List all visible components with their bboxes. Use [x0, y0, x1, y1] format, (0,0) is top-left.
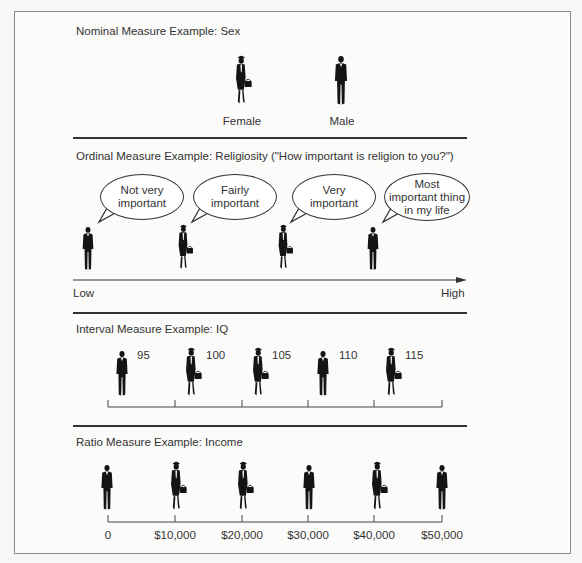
section-divider [73, 425, 467, 427]
male-figure-icon [301, 463, 317, 513]
iq-value-label: 115 [405, 349, 423, 361]
female-figure-icon [167, 461, 189, 513]
male-figure-icon [365, 226, 381, 272]
section-divider [73, 312, 467, 314]
bubble-text: Most [389, 178, 465, 191]
bubble-text: in my life [389, 204, 465, 217]
iq-value-label: 110 [339, 349, 357, 361]
bubble-text: important [118, 197, 166, 210]
income-tick-label: $20,000 [212, 529, 272, 541]
interval-title: Interval Measure Example: IQ [76, 323, 228, 335]
bubble-text: important [310, 197, 358, 210]
low-high-arrow [73, 274, 473, 286]
income-scale-axis [105, 514, 445, 528]
iq-value-label: 100 [206, 349, 225, 361]
male-figure-icon [434, 463, 450, 513]
interval-scale-axis [105, 396, 445, 410]
speech-bubble-very: Veryimportant [292, 174, 376, 220]
female-figure-icon [182, 347, 204, 399]
ordinal-title: Ordinal Measure Example: Religiosity ("H… [76, 150, 454, 162]
section-divider [73, 137, 467, 139]
female-figure-icon [368, 461, 390, 513]
speech-bubble-most: Mostimportant thingin my life [384, 173, 470, 221]
income-tick-label: $40,000 [344, 529, 404, 541]
iq-value-label: 105 [272, 349, 291, 361]
female-figure-icon [175, 224, 195, 272]
income-tick-label: $10,000 [145, 529, 205, 541]
ratio-title: Ratio Measure Example: Income [76, 436, 243, 448]
female-figure-icon [382, 347, 404, 399]
male-figure-icon [80, 226, 96, 272]
male-figure-icon [315, 349, 331, 399]
nominal-title: Nominal Measure Example: Sex [76, 25, 240, 37]
category-label-male: Male [322, 115, 362, 127]
bubble-text: important thing [389, 191, 465, 204]
axis-high-label: High [441, 287, 465, 299]
income-tick-label: $50,000 [412, 529, 472, 541]
income-tick-label: $30,000 [278, 529, 338, 541]
female-figure-icon [275, 224, 295, 272]
bubble-text: Not very [118, 184, 166, 197]
speech-bubble-fairly: Fairlyimportant [193, 174, 277, 220]
female-figure-icon [234, 461, 256, 513]
iq-value-label: 95 [137, 349, 150, 361]
bubble-text: Fairly [211, 184, 259, 197]
male-figure-icon [331, 55, 351, 107]
bubble-text: important [211, 197, 259, 210]
male-figure-icon [114, 349, 130, 399]
speech-bubble-not-very: Not veryimportant [100, 174, 184, 220]
male-figure-icon [99, 463, 115, 513]
bubble-text: Very [310, 184, 358, 197]
female-figure-icon [249, 347, 271, 399]
income-tick-label: 0 [88, 529, 128, 541]
category-label-female: Female [222, 115, 262, 127]
female-figure-icon [231, 55, 255, 107]
axis-low-label: Low [73, 287, 94, 299]
